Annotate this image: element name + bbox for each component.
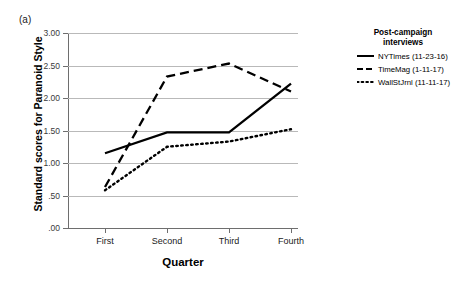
- legend-key-solid: [357, 51, 375, 61]
- x-tick-label: Third: [219, 236, 240, 246]
- y-tick-label: 1.50: [43, 126, 60, 136]
- y-tick-label: 2.00: [43, 93, 60, 103]
- legend-label: NYTimes (11-23-16): [378, 52, 448, 61]
- x-axis-line: [68, 228, 298, 229]
- legend-entry: TimeMag (1-11-17): [357, 64, 452, 74]
- y-tick-label: 3.00: [43, 28, 60, 38]
- legend-entry: NYTimes (11-23-16): [357, 51, 452, 61]
- panel-label: (a): [19, 14, 31, 25]
- y-tick-label: .00: [48, 223, 60, 233]
- legend: Post-campaign interviews NYTimes (11-23-…: [357, 28, 452, 87]
- legend-entry: WallStJrnl (11-11-17): [357, 77, 452, 87]
- y-tick-label: .50: [48, 191, 60, 201]
- figure-panel-a: (a) Standard scores for Paranoid Style 3…: [0, 0, 452, 283]
- x-tick-label: Second: [152, 236, 183, 246]
- legend-key-dashed: [357, 64, 375, 74]
- legend-title-line2: interviews: [357, 38, 449, 48]
- series-line: [105, 64, 291, 188]
- x-tick-label: Fourth: [278, 236, 304, 246]
- x-tick-label: First: [96, 236, 114, 246]
- legend-title-line1: Post-campaign: [357, 28, 449, 38]
- legend-label: TimeMag (1-11-17): [378, 65, 444, 74]
- y-tick-mark: [63, 228, 68, 229]
- legend-title: Post-campaign interviews: [357, 28, 449, 48]
- x-tick-mark: [229, 228, 230, 233]
- legend-entries: NYTimes (11-23-16)TimeMag (1-11-17)WallS…: [357, 51, 452, 87]
- plot-area: 3.002.502.001.501.00.50.00 FirstSecondTh…: [68, 33, 298, 228]
- x-tick-mark: [105, 228, 106, 233]
- x-tick-mark: [167, 228, 168, 233]
- y-axis-title: Standard scores for Paranoid Style: [32, 24, 44, 224]
- x-tick-mark: [291, 228, 292, 233]
- y-tick-label: 1.00: [43, 158, 60, 168]
- legend-key-dotted: [357, 77, 375, 87]
- y-tick-label: 2.50: [43, 61, 60, 71]
- legend-label: WallStJrnl (11-11-17): [378, 78, 450, 87]
- x-axis-title: Quarter: [68, 256, 298, 268]
- series-line: [105, 84, 291, 154]
- series-layer: [68, 33, 298, 228]
